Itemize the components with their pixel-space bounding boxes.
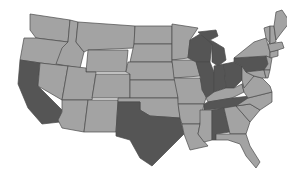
us-map: [0, 0, 287, 180]
state-co: [92, 74, 130, 98]
state-ks: [130, 80, 178, 98]
state-ia: [172, 60, 200, 78]
state-nm: [84, 100, 118, 132]
state-wy: [86, 50, 128, 72]
state-me: [274, 10, 287, 40]
states-layer: [18, 10, 287, 168]
state-ms: [198, 110, 212, 142]
state-mt: [76, 22, 135, 52]
state-oh: [224, 62, 242, 88]
state-sd: [130, 44, 172, 62]
state-nd: [134, 26, 172, 44]
state-ne: [126, 62, 176, 80]
state-fl: [216, 134, 260, 168]
state-ny: [234, 38, 270, 58]
state-az: [58, 100, 88, 132]
